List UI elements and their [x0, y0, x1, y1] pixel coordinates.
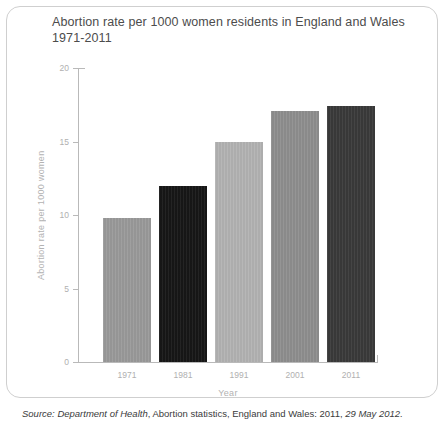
- bar-1981[interactable]: [159, 186, 207, 362]
- x-tick-label-1981: 1981: [159, 370, 207, 380]
- bar-series: [78, 68, 378, 362]
- y-tick-0: [73, 362, 79, 363]
- source-lead: Source: Department of Health: [22, 408, 148, 419]
- x-tick-label-2001: 2001: [271, 370, 319, 380]
- bar-1971[interactable]: [103, 218, 151, 362]
- plot-area: 05101520 19711981199120012011: [78, 68, 378, 362]
- x-tick-label-2011: 2011: [327, 370, 375, 380]
- y-tick-label-15: 15: [60, 137, 69, 147]
- source-middle: , Abortion statistics, England and Wales…: [148, 408, 346, 419]
- chart-title: Abortion rate per 1000 women residents i…: [52, 14, 422, 46]
- bar-2011[interactable]: [327, 106, 375, 362]
- bar-1991[interactable]: [215, 142, 263, 363]
- chart-page: Abortion rate per 1000 women residents i…: [0, 0, 444, 430]
- y-tick-label-0: 0: [64, 357, 69, 367]
- x-tick-label-1971: 1971: [103, 370, 151, 380]
- source-note: Source: Department of Health, Abortion s…: [22, 408, 438, 419]
- y-tick-label-5: 5: [64, 284, 69, 294]
- y-tick-label-20: 20: [60, 63, 69, 73]
- x-tick-label-1991: 1991: [215, 370, 263, 380]
- x-axis-line: [78, 362, 378, 363]
- y-axis-title: Abortion rate per 1000 women: [36, 68, 46, 362]
- y-tick-label-10: 10: [60, 210, 69, 220]
- source-date: 29 May 2012.: [345, 408, 403, 419]
- x-axis-title: Year: [78, 388, 378, 398]
- bar-2001[interactable]: [271, 111, 319, 362]
